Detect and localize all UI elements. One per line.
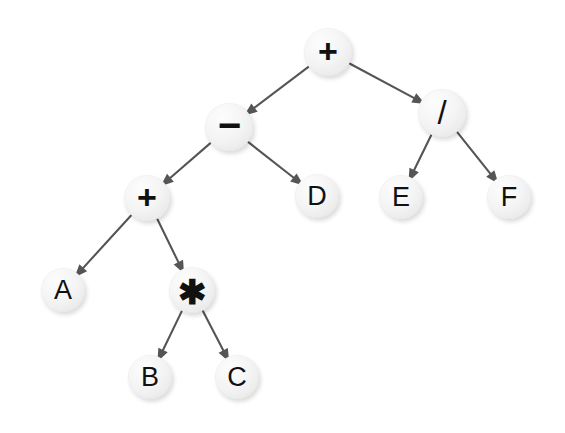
tree-node-label: B	[141, 364, 159, 391]
tree-node-plus2: +	[124, 175, 170, 221]
tree-edge-e6	[458, 133, 499, 184]
tree-node-leaf_c: C	[215, 355, 259, 399]
tree-edge-e4	[249, 142, 304, 185]
tree-edge-e2	[350, 64, 425, 104]
tree-node-leaf_b: B	[128, 355, 172, 399]
tree-node-minus: −	[205, 103, 253, 151]
tree-node-label: C	[227, 364, 247, 391]
tree-edge-e10	[203, 311, 229, 362]
tree-node-leaf_f: F	[487, 175, 531, 219]
tree-edge-e5	[408, 135, 431, 181]
tree-node-label: D	[307, 183, 327, 210]
tree-edge-e1	[244, 67, 308, 115]
tree-node-label: −	[218, 105, 240, 145]
tree-node-label: A	[54, 277, 72, 304]
tree-node-label: +	[137, 180, 157, 214]
tree-node-label: E	[392, 184, 410, 211]
tree-edge-e7	[74, 216, 130, 278]
tree-node-label: ✱	[178, 275, 206, 309]
tree-node-label: +	[318, 34, 338, 68]
tree-node-leaf_d: D	[295, 174, 339, 218]
tree-node-leaf_e: E	[379, 175, 423, 219]
tree-edge-e8	[158, 220, 185, 274]
tree-edge-e3	[161, 143, 210, 186]
tree-node-label: /	[437, 96, 446, 129]
tree-node-label: F	[501, 184, 518, 211]
tree-node-leaf_a: A	[41, 268, 85, 312]
tree-node-divide: /	[418, 89, 466, 137]
edge-layer	[0, 0, 565, 433]
tree-node-star: ✱	[169, 267, 215, 313]
expression-tree-diagram: +−/+DEFA✱BC	[0, 0, 565, 433]
tree-edge-e9	[157, 312, 181, 362]
tree-node-root_plus: +	[304, 28, 352, 76]
